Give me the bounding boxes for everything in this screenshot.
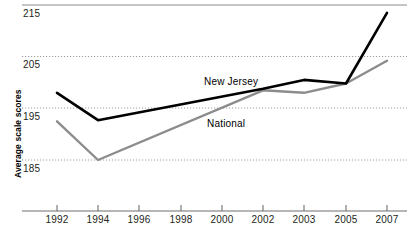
x-tick-label-1992: 1992 (37, 214, 77, 225)
x-axis-ticks (57, 205, 387, 211)
x-tick-label-2000: 2000 (202, 214, 242, 225)
x-tick-label-1998: 1998 (161, 214, 201, 225)
line-series-new-jersey (57, 13, 387, 120)
x-tick-label-2005: 2005 (326, 214, 366, 225)
x-tick-label-1994: 1994 (78, 214, 118, 225)
series-annotation-national: National (207, 118, 245, 129)
x-tick-label-2007: 2007 (367, 214, 407, 225)
x-tick-label-1996: 1996 (119, 214, 159, 225)
series-annotation-new-jersey: New Jersey (204, 76, 258, 87)
x-tick-label-2002: 2002 (243, 214, 283, 225)
x-tick-label-2003: 2003 (284, 214, 324, 225)
chart-container: Average scale scores 215 205 195 185 199… (0, 0, 417, 235)
